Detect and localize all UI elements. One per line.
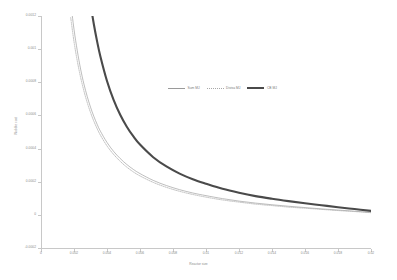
series-line xyxy=(71,0,371,211)
legend-item[interactable]: Divisa MJ xyxy=(207,86,241,90)
y-axis-title: Wobble cost xyxy=(14,96,18,156)
legend-swatch-icon xyxy=(207,88,224,89)
chart-container: 0.00120.0010.00080.00060.00040.00020-0.0… xyxy=(0,0,397,280)
legend-label: Sum MJ xyxy=(188,86,200,90)
chart-legend: Sum MJDivisa MJCB MJ xyxy=(168,82,277,94)
legend-item[interactable]: CB MJ xyxy=(247,86,276,90)
legend-item[interactable]: Sum MJ xyxy=(168,86,200,90)
series-line xyxy=(71,18,371,213)
legend-label: Divisa MJ xyxy=(226,86,240,90)
legend-label: CB MJ xyxy=(267,86,277,90)
legend-swatch-icon xyxy=(168,88,185,89)
x-axis-title: Reactor size xyxy=(0,262,397,266)
chart-series-layer xyxy=(0,0,397,280)
legend-swatch-icon xyxy=(247,87,264,89)
